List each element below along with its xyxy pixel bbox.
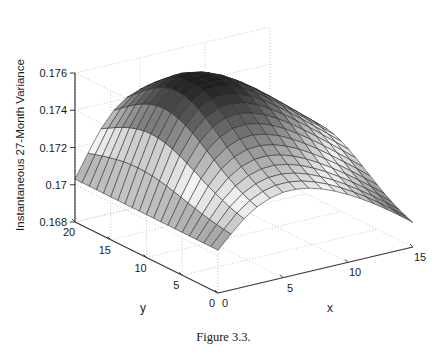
y-axis-title: y — [140, 301, 146, 315]
figure-caption: Figure 3.3. — [0, 330, 447, 345]
x-tick-label: 5 — [287, 282, 293, 294]
x-tick-label: 10 — [349, 266, 361, 278]
surface-mesh — [75, 72, 413, 250]
z-tick-label: 0.172 — [39, 142, 67, 154]
z-tick-label: 0.176 — [39, 67, 67, 79]
x-axis-title: x — [327, 301, 333, 315]
y-tick-label: 0 — [209, 297, 215, 309]
z-tick-label: 0.17 — [46, 179, 67, 191]
y-tick-label: 10 — [134, 262, 146, 274]
y-tick-label: 5 — [173, 279, 179, 291]
x-tick-label: 15 — [414, 251, 426, 263]
y-tick-label: 20 — [63, 226, 75, 238]
x-tick-label: 0 — [222, 297, 228, 309]
z-tick-label: 0.174 — [39, 104, 67, 116]
y-tick-label: 15 — [99, 244, 111, 256]
surface-plot: 0.1680.170.1720.1740.17605101520051015 I… — [0, 0, 447, 357]
z-axis-title: Instantaneous 27-Month Variance — [14, 59, 26, 231]
figure-container: 0.1680.170.1720.1740.17605101520051015 I… — [0, 0, 447, 357]
